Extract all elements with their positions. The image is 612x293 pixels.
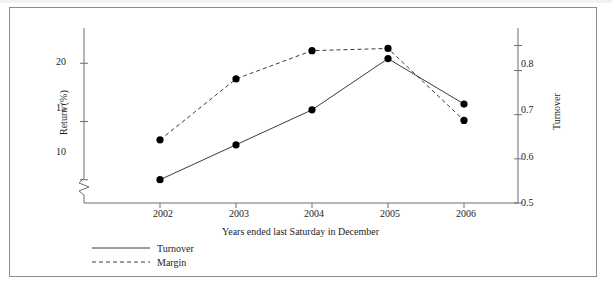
data-point-turnover-2005 xyxy=(384,55,391,62)
x-axis-title: Years ended last Saturday in December xyxy=(222,226,379,237)
right-axis-tick-label-05: 0.5 xyxy=(521,197,534,208)
left-axis-tick-label-10: 10 xyxy=(44,146,66,157)
data-point-margin-2002 xyxy=(156,136,163,143)
data-point-margin-2003 xyxy=(232,75,239,82)
data-point-margin-2006 xyxy=(460,117,467,124)
right-axis-tick-label-06: 0.6 xyxy=(521,151,534,162)
data-point-turnover-2002 xyxy=(156,176,163,183)
data-point-margin-2005 xyxy=(384,45,391,52)
legend-label-margin: Margin xyxy=(157,257,186,268)
chart-canvas xyxy=(0,0,612,293)
chart-svg xyxy=(0,0,612,293)
data-point-margin-2004 xyxy=(308,47,315,54)
right-axis-title: Turnover xyxy=(551,93,562,130)
x-axis-tick-label-2005: 2005 xyxy=(380,208,400,219)
x-axis-tick-label-2004: 2004 xyxy=(304,208,324,219)
data-point-turnover-2004 xyxy=(308,106,315,113)
right-axis-tick-label-08: 0.8 xyxy=(521,58,534,69)
left-axis-title: Return (%) xyxy=(58,90,69,135)
legend-label-turnover: Turnover xyxy=(157,243,194,254)
x-axis-tick-label-2003: 2003 xyxy=(229,208,249,219)
figure-page: 20 15 10 Return (%) 0.8 0.7 0.6 0.5 Turn… xyxy=(0,0,612,293)
x-axis-tick-label-2006: 2006 xyxy=(456,208,476,219)
data-point-turnover-2006 xyxy=(460,100,467,107)
right-axis-tick-label-07: 0.7 xyxy=(521,104,534,115)
left-axis-break-icon xyxy=(79,178,89,203)
left-axis-tick-label-20: 20 xyxy=(44,56,66,67)
data-point-turnover-2003 xyxy=(232,141,239,148)
series-line-margin xyxy=(160,48,464,139)
x-axis-tick-label-2002: 2002 xyxy=(153,208,173,219)
